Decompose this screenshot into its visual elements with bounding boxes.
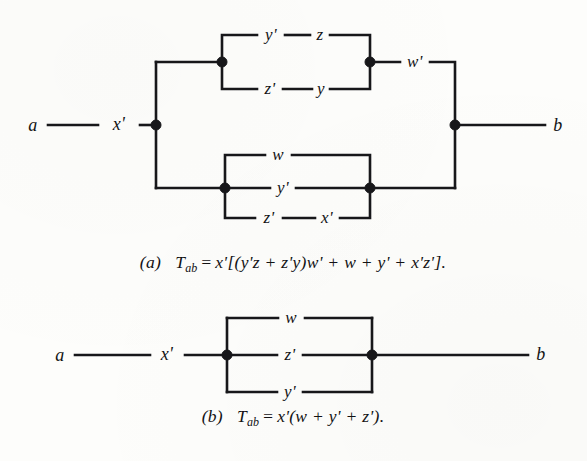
figure-b-branch-w: w [285,309,297,326]
figure-b-caption-tag: (b) [202,406,223,426]
figure-b-series-label-xprime: x' [161,345,174,363]
figure-b-caption-rhs: x'(w + y' + z'). [277,406,384,426]
figure-b-terminal-b: b [536,345,545,363]
node-b-parallel-right [367,350,377,360]
figure-b-branch-yprime: y' [284,383,296,400]
figure-page: a x' b y' z z' y w' w y' z' x' (a)Tab=x'… [0,0,587,461]
figure-b-caption-equals: = [259,406,277,426]
figure-b-caption-subscript: ab [247,415,259,429]
figure-b-branch-zprime: z' [284,346,295,363]
node-b-parallel-left [222,350,232,360]
figure-b-caption-symbol: T [237,406,247,426]
figure-b-terminal-a: a [55,346,64,364]
figure-b-caption: (b)Tab=x'(w + y' + z'). [202,406,385,430]
